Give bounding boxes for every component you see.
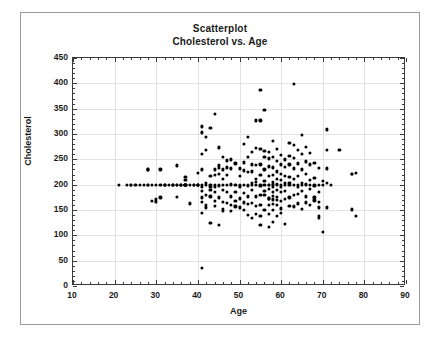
data-point: [263, 193, 266, 196]
data-point: [267, 212, 270, 215]
data-point: [255, 204, 258, 207]
data-point: [317, 183, 320, 186]
y-tick-label: 0: [42, 280, 68, 290]
data-point: [225, 173, 228, 176]
data-point: [271, 139, 274, 142]
data-point: [271, 208, 274, 211]
x-axis-minor-tick: [389, 58, 390, 60]
data-point: [200, 266, 203, 269]
x-axis-major-tick: [323, 58, 324, 62]
x-axis-minor-tick: [215, 282, 216, 284]
data-point: [292, 183, 295, 186]
data-point: [213, 204, 216, 207]
y-axis-minor-tick: [402, 281, 404, 282]
y-axis-minor-tick: [73, 73, 75, 74]
data-point: [205, 149, 208, 152]
y-axis-minor-tick: [73, 215, 75, 216]
data-point: [175, 183, 178, 186]
data-point: [292, 82, 295, 85]
data-point: [221, 209, 224, 212]
x-axis-minor-tick: [165, 58, 166, 60]
x-axis-minor-tick: [273, 58, 274, 60]
y-tick-label: 350: [42, 103, 68, 113]
y-axis-minor-tick: [402, 195, 404, 196]
data-point: [155, 200, 158, 203]
data-point: [275, 159, 278, 162]
data-point: [242, 169, 245, 172]
data-point: [238, 167, 241, 170]
data-point: [296, 192, 299, 195]
data-point: [259, 214, 262, 217]
y-axis-minor-tick: [402, 256, 404, 257]
data-point: [259, 119, 262, 122]
data-point: [284, 174, 287, 177]
x-axis-minor-tick: [140, 58, 141, 60]
y-axis-minor-tick: [73, 88, 75, 89]
data-point: [184, 178, 187, 181]
y-axis-minor-tick: [73, 129, 75, 130]
y-tick-label: 450: [42, 52, 68, 62]
data-point: [205, 135, 208, 138]
data-point: [159, 168, 162, 171]
x-axis-minor-tick: [123, 58, 124, 60]
y-axis-minor-tick: [402, 190, 404, 191]
y-axis-major-tick: [73, 185, 77, 186]
y-axis-major-tick: [400, 58, 404, 59]
x-axis-minor-tick: [389, 282, 390, 284]
data-point: [213, 173, 216, 176]
data-point: [267, 174, 270, 177]
x-axis-minor-tick: [81, 58, 82, 60]
data-point: [246, 135, 249, 138]
x-axis-minor-tick: [223, 282, 224, 284]
data-point: [300, 183, 303, 186]
data-point: [200, 125, 203, 128]
x-axis-minor-tick: [298, 58, 299, 60]
x-axis-title: Age: [72, 306, 405, 316]
gridline-vertical: [364, 58, 365, 284]
data-point: [180, 183, 183, 186]
y-axis-minor-tick: [402, 164, 404, 165]
x-axis-minor-tick: [331, 58, 332, 60]
data-point: [188, 202, 191, 205]
y-axis-major-tick: [400, 261, 404, 262]
data-point: [155, 183, 158, 186]
data-point: [309, 187, 312, 190]
y-axis-minor-tick: [73, 169, 75, 170]
y-axis-minor-tick: [73, 144, 75, 145]
data-point: [263, 149, 266, 152]
y-axis-minor-tick: [402, 68, 404, 69]
data-point: [309, 151, 312, 154]
data-point: [317, 206, 320, 209]
data-point: [167, 183, 170, 186]
data-point: [275, 170, 278, 173]
x-axis-minor-tick: [231, 58, 232, 60]
x-axis-major-tick: [115, 58, 116, 62]
x-axis-minor-tick: [123, 282, 124, 284]
data-point: [275, 214, 278, 217]
x-axis-major-tick: [198, 58, 199, 62]
data-point: [292, 193, 295, 196]
y-axis-major-tick: [400, 286, 404, 287]
y-axis-minor-tick: [402, 119, 404, 120]
x-tick-label: 80: [359, 290, 368, 300]
data-point: [246, 202, 249, 205]
data-point: [259, 224, 262, 227]
data-point: [230, 158, 233, 161]
x-axis-minor-tick: [81, 282, 82, 284]
y-axis-minor-tick: [402, 169, 404, 170]
y-axis-major-tick: [73, 83, 77, 84]
data-point: [171, 183, 174, 186]
data-point: [267, 226, 270, 229]
data-point: [234, 205, 237, 208]
data-point: [325, 206, 328, 209]
data-point: [263, 183, 266, 186]
x-axis-minor-tick: [215, 58, 216, 60]
data-point: [325, 167, 328, 170]
x-axis-minor-tick: [264, 58, 265, 60]
x-axis-minor-tick: [306, 282, 307, 284]
data-point: [200, 189, 203, 192]
data-point: [292, 143, 295, 146]
data-point: [280, 185, 283, 188]
data-point: [225, 166, 228, 169]
x-axis-minor-tick: [373, 58, 374, 60]
